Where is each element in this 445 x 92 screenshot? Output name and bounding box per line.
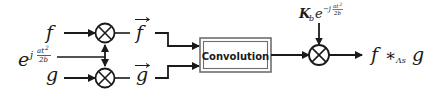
f-vec-to-conv-arrow (155, 33, 199, 46)
multiplier-top-icon (96, 24, 115, 43)
svg-text:at: at (333, 3, 339, 9)
convolution-block: Convolution (200, 38, 271, 72)
convolution-label: Convolution (202, 51, 269, 62)
svg-text:∗: ∗ (385, 45, 397, 65)
svg-text:2b: 2b (38, 56, 48, 64)
input-g-label: g (46, 63, 58, 85)
multiplier-bottom-icon (96, 69, 115, 88)
svg-text:g: g (136, 63, 148, 85)
svg-text:2: 2 (339, 2, 343, 7)
svg-text:b: b (309, 14, 314, 23)
svg-text:f: f (134, 21, 146, 43)
f-vec-label: f (134, 18, 150, 44)
post-chirp-label: K b e −j at 2 2b (298, 2, 343, 24)
svg-text:f: f (369, 43, 381, 65)
g-vec-label: g (135, 63, 150, 85)
svg-text:Λs: Λs (395, 56, 406, 65)
svg-text:2b: 2b (333, 10, 341, 16)
svg-text:g: g (412, 43, 424, 65)
input-f-label: f (44, 21, 56, 43)
svg-text:e: e (18, 48, 29, 70)
svg-text:at: at (37, 47, 44, 55)
svg-text:−j: −j (323, 5, 332, 13)
output-label: f ∗ Λs g (369, 43, 424, 65)
diagram-canvas: f g e j at 2 2b (0, 0, 445, 92)
g-vec-to-conv-arrow (155, 66, 199, 78)
multiplier-output-icon (309, 45, 329, 65)
svg-text:e: e (315, 6, 323, 21)
svg-text:2: 2 (44, 44, 49, 51)
